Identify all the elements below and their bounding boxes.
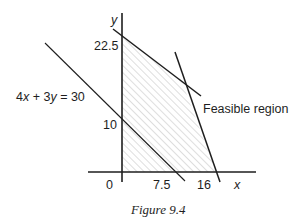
feasible-region	[122, 37, 216, 172]
y-axis-label: y	[110, 13, 118, 27]
x-tick-16: 16	[197, 178, 211, 192]
constraint-label: 4x + 3y = 30	[16, 90, 85, 104]
y-tick-22-5: 22.5	[94, 39, 118, 53]
x-axis-label: x	[233, 178, 241, 192]
feasible-region-label: Feasible region	[203, 102, 289, 116]
figure-caption: Figure 9.4	[130, 202, 186, 217]
feasible-region-diagram: y x 0 22.5 10 7.5 16 4x + 3y = 30 Feasib…	[0, 0, 290, 219]
y-tick-10: 10	[103, 118, 117, 132]
x-tick-7-5: 7.5	[153, 178, 170, 192]
origin-label: 0	[106, 178, 113, 192]
